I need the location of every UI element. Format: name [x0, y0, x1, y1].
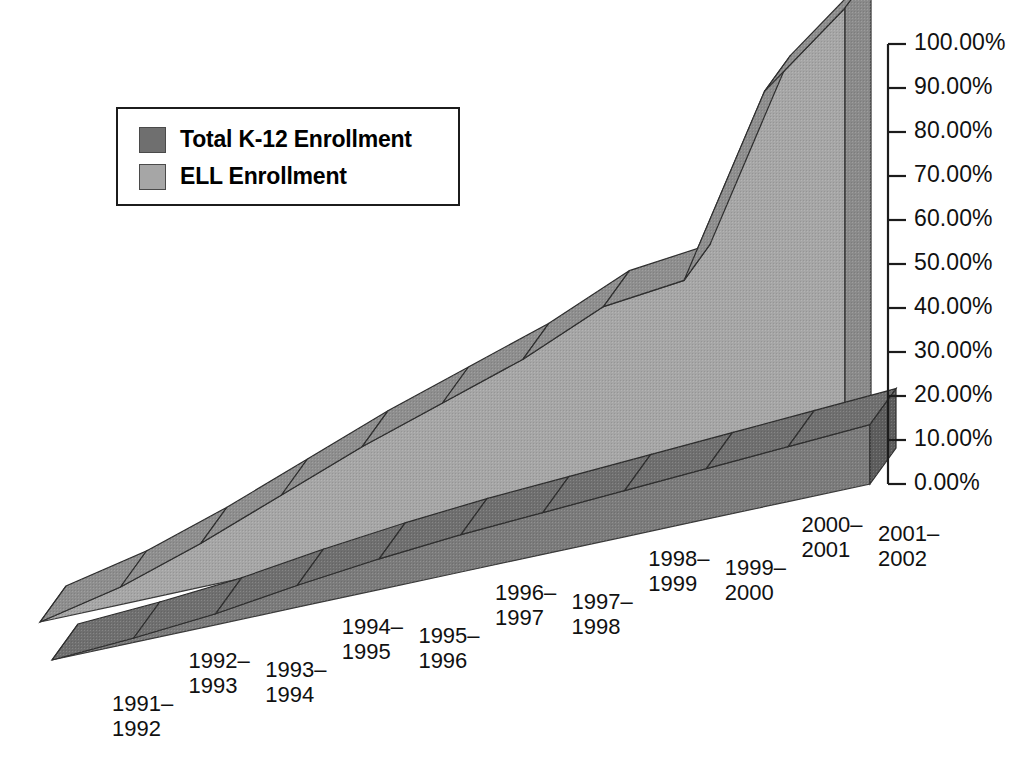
x-axis-tick-label: 1991–1992	[112, 691, 173, 741]
y-axis-tick-label: 10.00%	[914, 425, 993, 452]
legend-item-total-k12: Total K-12 Enrollment	[139, 126, 412, 153]
x-axis-tick-label-line2: 2000	[725, 580, 786, 605]
x-axis-tick-label-line2: 1995	[342, 639, 403, 664]
y-axis-tick-label: 50.00%	[914, 249, 993, 276]
y-axis-tick-label: 100.00%	[914, 29, 1006, 56]
x-axis-tick-label: 1999–2000	[725, 555, 786, 605]
x-axis-tick-label-line1: 1998–	[648, 546, 709, 571]
y-axis-tick-label: 20.00%	[914, 381, 993, 408]
legend-label-total-k12: Total K-12 Enrollment	[180, 126, 412, 153]
x-axis-tick-label-line2: 1992	[112, 716, 173, 741]
x-axis-tick-label-line2: 2001	[801, 537, 862, 562]
x-axis-tick-label: 2001–2002	[878, 521, 939, 571]
x-axis-tick-label-line1: 1993–	[265, 657, 326, 682]
x-axis-tick-label-line1: 1997–	[572, 589, 633, 614]
x-axis-tick-label: 1996–1997	[495, 580, 556, 630]
x-axis-tick-label: 1995–1996	[418, 623, 479, 673]
legend-item-ell: ELL Enrollment	[139, 163, 347, 190]
x-axis-tick-label-line1: 1991–	[112, 691, 173, 716]
x-axis-tick-label-line2: 1997	[495, 605, 556, 630]
x-axis-tick-label-line2: 1996	[418, 648, 479, 673]
legend-swatch-ell	[139, 164, 166, 190]
x-axis-tick-label-line1: 1992–	[189, 648, 250, 673]
x-axis-tick-label-line2: 1993	[189, 673, 250, 698]
x-axis-tick-label-line1: 1996–	[495, 580, 556, 605]
x-axis-tick-label: 1997–1998	[572, 589, 633, 639]
y-axis-tick-label: 60.00%	[914, 205, 993, 232]
x-axis-tick-label: 1992–1993	[189, 648, 250, 698]
x-axis-tick-label-line1: 2000–	[801, 512, 862, 537]
x-axis-tick-label: 2000–2001	[801, 512, 862, 562]
x-axis-tick-label-line2: 1998	[572, 614, 633, 639]
x-axis-tick-label: 1994–1995	[342, 614, 403, 664]
y-axis-tick-label: 80.00%	[914, 117, 993, 144]
x-axis-tick-label-line1: 1999–	[725, 555, 786, 580]
x-axis-tick-label: 1998–1999	[648, 546, 709, 596]
x-axis-tick-label-line2: 2002	[878, 546, 939, 571]
y-axis-tick-label: 40.00%	[914, 293, 993, 320]
y-axis-tick-label: 70.00%	[914, 161, 993, 188]
x-axis-tick-label-line1: 2001–	[878, 521, 939, 546]
x-axis-tick-label: 1993–1994	[265, 657, 326, 707]
y-axis-tick-label: 0.00%	[914, 469, 980, 496]
x-axis-tick-label-line1: 1995–	[418, 623, 479, 648]
y-axis-tick-label: 30.00%	[914, 337, 993, 364]
legend-label-ell: ELL Enrollment	[180, 163, 347, 190]
x-axis-tick-label-line2: 1999	[648, 571, 709, 596]
chart-legend: Total K-12 Enrollment ELL Enrollment	[116, 107, 460, 206]
y-axis-tick-label: 90.00%	[914, 73, 993, 100]
x-axis-tick-label-line1: 1994–	[342, 614, 403, 639]
x-axis-tick-label-line2: 1994	[265, 682, 326, 707]
chart-container: 100.00%90.00%80.00%70.00%60.00%50.00%40.…	[0, 0, 1020, 775]
legend-swatch-total-k12	[139, 127, 166, 153]
